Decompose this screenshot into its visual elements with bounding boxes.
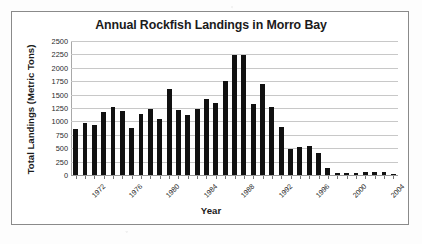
bar-1991 [251, 104, 256, 175]
x-tick-1995 [291, 176, 292, 179]
x-tick-1988 [225, 176, 226, 179]
bar-2006 [391, 174, 396, 175]
bar-1983 [176, 110, 181, 175]
y-tick-label-750: 750 [22, 130, 68, 139]
y-tick-label-2500: 2500 [22, 37, 68, 46]
chart-title: Annual Rockfish Landings in Morro Bay [12, 18, 410, 32]
y-tick-label-1250: 1250 [22, 104, 68, 113]
x-tick-1991 [253, 176, 254, 179]
gridline-2500 [71, 41, 398, 42]
bar-1977 [120, 111, 125, 175]
y-tick-label-1500: 1500 [22, 90, 68, 99]
x-tick-1998 [319, 176, 320, 179]
x-tick-label-1988: 1988 [239, 182, 257, 200]
x-tick-1972 [76, 176, 77, 179]
x-tick-label-1984: 1984 [201, 182, 219, 200]
bar-1990 [241, 55, 246, 175]
bar-1984 [185, 115, 190, 175]
bar-1994 [279, 127, 284, 175]
bar-2002 [354, 173, 359, 175]
chart-frame: Annual Rockfish Landings in Morro Bay To… [11, 11, 409, 225]
bar-1987 [213, 103, 218, 175]
y-tick-label-1000: 1000 [22, 117, 68, 126]
y-tick-label-2000: 2000 [22, 63, 68, 72]
x-tick-1986 [206, 176, 207, 179]
x-tick-1993 [272, 176, 273, 179]
figure-container: Annual Rockfish Landings in Morro Bay To… [0, 0, 422, 244]
x-tick-label-1980: 1980 [164, 182, 182, 200]
bar-1980 [148, 109, 153, 175]
x-tick-1989 [235, 176, 236, 179]
x-tick-1987 [216, 176, 217, 179]
bar-1989 [232, 55, 237, 175]
x-tick-1983 [178, 176, 179, 179]
x-tick-1994 [281, 176, 282, 179]
bar-1979 [139, 114, 144, 175]
bar-1992 [260, 84, 265, 175]
bar-1995 [288, 149, 293, 175]
x-tick-2003 [365, 176, 366, 179]
x-axis-tick-labels: 197219761980198419881992199620002004 [71, 182, 411, 212]
bar-1973 [83, 123, 88, 175]
bar-1985 [195, 109, 200, 175]
bar-2005 [382, 172, 387, 175]
bar-1972 [73, 129, 78, 175]
plot-area [71, 41, 398, 175]
x-tick-1975 [104, 176, 105, 179]
x-tick-1999 [328, 176, 329, 179]
bar-1976 [111, 107, 116, 175]
bar-1982 [167, 89, 172, 175]
x-tick-1996 [300, 176, 301, 179]
x-tick-label-1976: 1976 [127, 182, 145, 200]
bar-1986 [204, 99, 209, 175]
x-tick-label-1996: 1996 [314, 182, 332, 200]
bar-1993 [269, 107, 274, 175]
x-tick-1990 [244, 176, 245, 179]
x-tick-1992 [263, 176, 264, 179]
bar-1974 [92, 125, 97, 175]
bar-2003 [363, 172, 368, 175]
bar-2004 [372, 172, 377, 175]
x-tick-1981 [160, 176, 161, 179]
x-tick-1973 [85, 176, 86, 179]
x-tick-1980 [150, 176, 151, 179]
x-tick-2002 [356, 176, 357, 179]
bar-1981 [157, 119, 162, 175]
y-tick-label-500: 500 [22, 144, 68, 153]
x-tick-1984 [188, 176, 189, 179]
y-tick-label-250: 250 [22, 157, 68, 166]
bar-1999 [325, 168, 330, 175]
x-tick-label-2004: 2004 [388, 182, 406, 200]
x-tick-1982 [169, 176, 170, 179]
x-tick-1977 [122, 176, 123, 179]
y-axis-tick-labels: 25002250200017501500125010007505002500 [18, 41, 68, 175]
bar-1996 [297, 147, 302, 175]
y-tick-label-0: 0 [22, 171, 68, 180]
x-tick-1976 [113, 176, 114, 179]
y-tick-label-1750: 1750 [22, 77, 68, 86]
bar-1997 [307, 146, 312, 175]
x-tick-2004 [375, 176, 376, 179]
x-tick-2006 [393, 176, 394, 179]
x-tick-1985 [197, 176, 198, 179]
x-axis-tick-marks [71, 176, 398, 180]
x-tick-label-1992: 1992 [276, 182, 294, 200]
x-tick-label-1972: 1972 [89, 182, 107, 200]
bar-1978 [129, 128, 134, 175]
x-tick-1978 [132, 176, 133, 179]
x-tick-1997 [309, 176, 310, 179]
bar-1998 [316, 153, 321, 175]
bar-2001 [344, 173, 349, 175]
x-tick-label-2000: 2000 [351, 182, 369, 200]
bar-1975 [101, 112, 106, 175]
x-tick-1974 [94, 176, 95, 179]
x-tick-2001 [347, 176, 348, 179]
y-tick-label-2250: 2250 [22, 50, 68, 59]
x-tick-1979 [141, 176, 142, 179]
x-tick-2000 [337, 176, 338, 179]
x-tick-2005 [384, 176, 385, 179]
bar-2000 [335, 173, 340, 175]
bar-1988 [223, 81, 228, 175]
